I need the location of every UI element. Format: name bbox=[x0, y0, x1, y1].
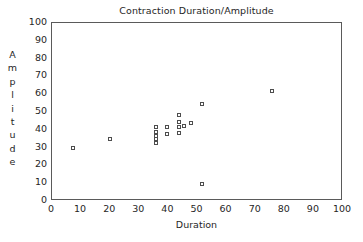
y-axis-title-letter: t bbox=[6, 115, 19, 128]
data-point-marker bbox=[154, 141, 158, 145]
y-tick-label: 90 bbox=[23, 35, 47, 45]
x-tick-label: 60 bbox=[211, 203, 241, 214]
x-tick-label: 80 bbox=[269, 203, 299, 214]
data-points-layer bbox=[51, 22, 342, 200]
x-tick-label: 10 bbox=[65, 203, 95, 214]
data-point-marker bbox=[177, 131, 181, 135]
x-tick-label: 70 bbox=[240, 203, 270, 214]
data-point-marker bbox=[165, 132, 169, 136]
y-axis-title-letter: d bbox=[6, 142, 19, 155]
x-tick-label: 90 bbox=[298, 203, 328, 214]
y-axis-title-letter: p bbox=[6, 75, 19, 88]
y-tick-label: 60 bbox=[23, 88, 47, 98]
x-tick-label: 100 bbox=[327, 203, 357, 214]
x-tick-label: 30 bbox=[123, 203, 153, 214]
y-axis-title-letter: m bbox=[6, 61, 19, 74]
data-point-marker bbox=[189, 121, 193, 125]
y-axis-title-letter: i bbox=[6, 102, 19, 115]
x-tick-label: 40 bbox=[152, 203, 182, 214]
y-tick-label: 80 bbox=[23, 53, 47, 63]
x-axis-title: Duration bbox=[51, 219, 342, 231]
data-point-marker bbox=[177, 125, 181, 129]
scatter-plot-figure: Contraction Duration/Amplitude Amplitude… bbox=[0, 0, 363, 242]
data-point-marker bbox=[182, 124, 186, 128]
y-axis-title-letter: A bbox=[6, 48, 19, 61]
y-tick-label: 100 bbox=[23, 17, 47, 27]
y-tick-label: 70 bbox=[23, 70, 47, 80]
y-axis-title: Amplitude bbox=[6, 48, 19, 169]
data-point-marker bbox=[200, 102, 204, 106]
y-axis-title-letter: u bbox=[6, 128, 19, 141]
y-axis-title-letter: e bbox=[6, 155, 19, 168]
y-axis-tick-labels: 0102030405060708090100 bbox=[20, 22, 47, 200]
y-axis-title-letter: l bbox=[6, 88, 19, 101]
data-point-marker bbox=[71, 146, 75, 150]
data-point-marker bbox=[154, 125, 158, 129]
x-tick-label: 50 bbox=[182, 203, 212, 214]
x-axis-tick-labels: 0102030405060708090100 bbox=[51, 203, 342, 217]
y-tick-label: 10 bbox=[23, 177, 47, 187]
y-tick-label: 30 bbox=[23, 142, 47, 152]
y-tick-label: 20 bbox=[23, 159, 47, 169]
x-tick-label: 0 bbox=[36, 203, 66, 214]
y-tick-label: 50 bbox=[23, 106, 47, 116]
data-point-marker bbox=[177, 113, 181, 117]
data-point-marker bbox=[177, 120, 181, 124]
chart-title: Contraction Duration/Amplitude bbox=[51, 5, 342, 17]
x-tick-label: 20 bbox=[94, 203, 124, 214]
data-point-marker bbox=[165, 125, 169, 129]
data-point-marker bbox=[200, 182, 204, 186]
data-point-marker bbox=[270, 89, 274, 93]
data-point-marker bbox=[108, 137, 112, 141]
y-tick-label: 40 bbox=[23, 124, 47, 134]
